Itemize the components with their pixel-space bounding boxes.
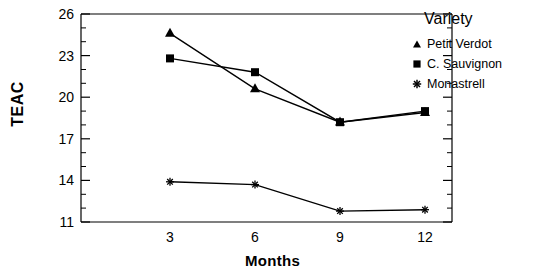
y-axis-major-ticks xyxy=(81,14,90,222)
y-axis-title: TEAC xyxy=(9,74,27,134)
y-tick-label: 23 xyxy=(44,49,74,63)
y-tick-label: 20 xyxy=(44,90,74,104)
triangle-marker-icon xyxy=(250,83,260,92)
legend-item-monastrell: Monastrell xyxy=(410,75,540,92)
y-tick-label: 17 xyxy=(44,132,74,146)
asterisk-marker-icon xyxy=(421,206,429,214)
chart-figure: 26 23 20 17 14 11 3 6 9 12 TEAC Months V… xyxy=(0,0,545,279)
y-tick-label: 26 xyxy=(44,7,74,21)
square-marker-icon xyxy=(410,57,424,71)
asterisk-marker-icon xyxy=(336,207,344,215)
y-tick-label: 11 xyxy=(44,215,74,229)
square-marker-icon xyxy=(251,68,259,76)
x-tick-label: 3 xyxy=(150,230,190,244)
square-marker-icon xyxy=(166,54,174,62)
legend-title: Variety xyxy=(410,10,540,28)
series-monastrell xyxy=(166,178,429,215)
x-axis-title: Months xyxy=(0,252,545,269)
triangle-marker-icon xyxy=(165,28,175,37)
legend-item-petit-verdot: Petit Verdot xyxy=(410,35,540,52)
legend-item-c-sauvignon: C. Sauvignon xyxy=(410,55,540,72)
chart-legend: Variety Petit Verdot C. Sauvignon xyxy=(410,10,540,95)
axis-frame xyxy=(81,14,452,222)
x-tick-label: 9 xyxy=(320,230,360,244)
y-tick-label: 14 xyxy=(44,173,74,187)
asterisk-marker-icon xyxy=(166,178,174,186)
legend-item-label: Petit Verdot xyxy=(427,37,492,51)
x-tick-label: 12 xyxy=(405,230,445,244)
y-axis-minor-ticks xyxy=(81,28,86,208)
square-marker-icon xyxy=(336,118,344,126)
asterisk-marker-icon xyxy=(251,181,259,189)
legend-item-label: Monastrell xyxy=(427,77,485,91)
asterisk-marker-icon xyxy=(410,77,424,91)
x-tick-label: 6 xyxy=(235,230,275,244)
triangle-marker-icon xyxy=(410,37,424,51)
legend-item-label: C. Sauvignon xyxy=(427,57,502,71)
square-marker-icon xyxy=(421,107,429,115)
series-petit-verdot xyxy=(165,28,430,126)
series-c-sauvignon xyxy=(166,54,429,126)
